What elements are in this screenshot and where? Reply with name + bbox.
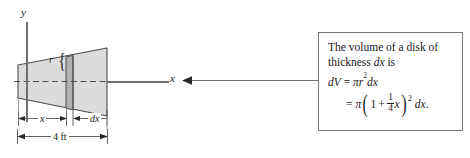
callout-leader-arrowhead xyxy=(182,76,192,85)
dimension-total-label: 4 ft xyxy=(51,131,69,142)
formula-expanded-paren-open: ( xyxy=(363,95,368,113)
formula-expanded-paren-close: ) xyxy=(401,95,406,113)
formula-expanded-fraction: 1 4 xyxy=(387,93,394,113)
disk-slice xyxy=(66,56,73,110)
formula-dv-equals: = xyxy=(344,76,351,88)
formula-expanded-var: x xyxy=(395,97,400,112)
formula-dv-lhs: dV xyxy=(328,76,341,88)
callout-content: The volume of a disk of thickness dx is … xyxy=(319,33,462,114)
dim-dx-arrow-left xyxy=(73,116,80,121)
radius-brace-icon: { xyxy=(58,50,66,71)
formula-dv: dV = πr2dx xyxy=(328,74,454,90)
dimension-dx-label: dx xyxy=(88,113,101,124)
formula-expanded: = π ( 1 + 1 4 x ) 2 dx. xyxy=(346,94,454,114)
dim-total-arrow-left xyxy=(17,134,25,139)
y-axis-label: y xyxy=(21,6,26,18)
radius-label: r xyxy=(49,54,53,65)
callout-line-1: The volume of a disk of xyxy=(328,40,454,55)
formula-dv-dx: dx xyxy=(367,76,378,88)
callout-line-2-math: dx xyxy=(374,56,385,68)
x-axis xyxy=(107,81,169,83)
y-axis xyxy=(26,22,28,122)
dimension-x-label: x xyxy=(38,113,46,124)
formula-expanded-plus: + xyxy=(378,97,385,112)
formula-expanded-one: 1 xyxy=(371,97,377,112)
callout-line-2-prefix: thickness xyxy=(328,56,374,68)
callout-line-2: thickness dx is xyxy=(328,55,454,70)
fraction-numerator: 1 xyxy=(387,93,394,103)
callout-line-2-suffix: is xyxy=(385,56,396,68)
formula-expanded-period: . xyxy=(426,97,429,112)
dim-x-arrow-right xyxy=(60,116,67,121)
dim-x-arrow-left xyxy=(18,116,25,121)
formula-expanded-exponent: 2 xyxy=(408,94,412,104)
x-axis-label: x xyxy=(170,72,175,84)
formula-expanded-pi: π xyxy=(356,97,362,112)
figure-canvas: y x r { x dx 4 ft The volume of a disk o… xyxy=(0,0,470,158)
formula-expanded-dx: dx xyxy=(415,97,426,112)
fraction-denominator: 4 xyxy=(387,103,394,114)
dim-total-arrow-right xyxy=(100,134,108,139)
formula-dv-exponent: 2 xyxy=(363,71,367,80)
callout-box: The volume of a disk of thickness dx is … xyxy=(318,32,463,131)
formula-expanded-equals: = xyxy=(346,97,353,112)
